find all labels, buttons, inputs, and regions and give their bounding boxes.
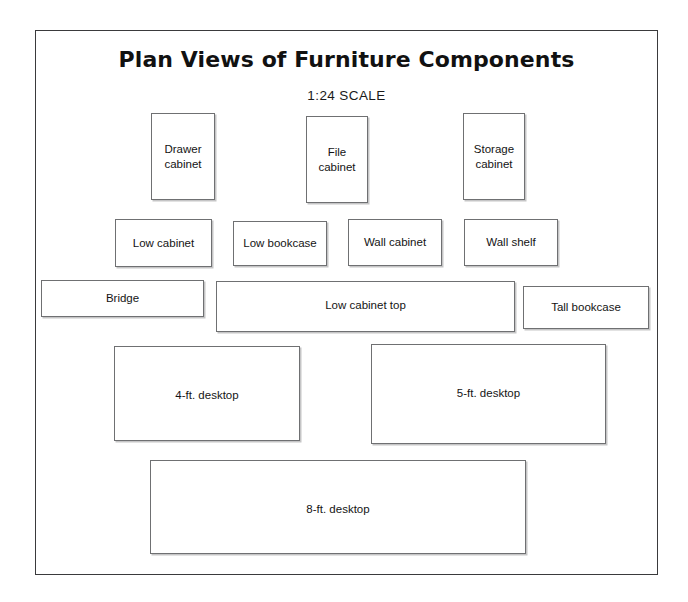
- plan-view-page: Plan Views of Furniture Components 1:24 …: [0, 0, 688, 602]
- part-label: 5-ft. desktop: [453, 386, 524, 401]
- part-low-bookcase: Low bookcase: [233, 221, 327, 266]
- part-low-cabinet-top: Low cabinet top: [216, 281, 515, 332]
- part-label: Storage cabinet: [470, 142, 518, 172]
- part-label: Wall shelf: [482, 235, 539, 250]
- part-label: File cabinet: [314, 145, 359, 175]
- part-8-ft-desktop: 8-ft. desktop: [150, 460, 526, 554]
- page-title: Plan Views of Furniture Components: [36, 47, 657, 72]
- part-bridge: Bridge: [41, 280, 204, 317]
- part-file-cabinet: File cabinet: [306, 116, 368, 203]
- part-label: Drawer cabinet: [160, 142, 205, 172]
- part-5-ft-desktop: 5-ft. desktop: [371, 344, 606, 444]
- part-label: Tall bookcase: [547, 300, 625, 315]
- part-tall-bookcase: Tall bookcase: [523, 286, 649, 329]
- part-label: Wall cabinet: [360, 235, 430, 250]
- part-label: Low cabinet top: [321, 298, 410, 313]
- part-storage-cabinet: Storage cabinet: [463, 113, 525, 200]
- part-drawer-cabinet: Drawer cabinet: [151, 113, 215, 200]
- part-label: Low bookcase: [239, 236, 321, 251]
- scale-note: 1:24 SCALE: [36, 88, 657, 103]
- part-low-cabinet: Low cabinet: [115, 219, 212, 267]
- drawing-frame: Plan Views of Furniture Components 1:24 …: [35, 30, 658, 575]
- part-label: Bridge: [102, 291, 143, 306]
- part-label: Low cabinet: [129, 236, 198, 251]
- part-wall-cabinet: Wall cabinet: [348, 219, 442, 266]
- part-wall-shelf: Wall shelf: [464, 219, 558, 266]
- part-4-ft-desktop: 4-ft. desktop: [114, 346, 300, 441]
- part-label: 4-ft. desktop: [171, 388, 242, 403]
- part-label: 8-ft. desktop: [302, 502, 373, 517]
